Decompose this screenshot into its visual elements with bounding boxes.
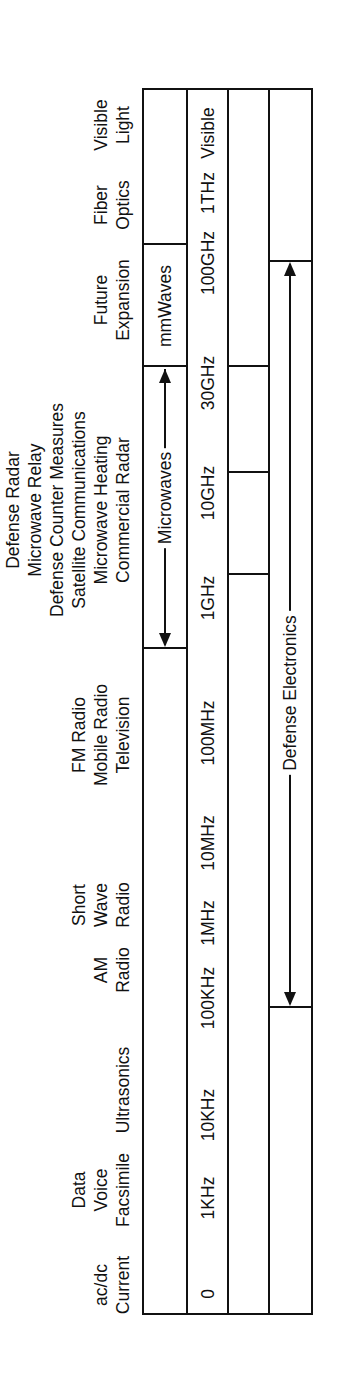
- freq-label-10ghz: 10GHz: [188, 466, 229, 520]
- row3-tick-1ghz: [227, 573, 268, 575]
- freq-label-10khz: 10KHz: [188, 1089, 229, 1142]
- defense-electronics-label: Defense Electronics: [280, 611, 301, 775]
- row3-tick-30ghz: [227, 365, 268, 367]
- header-label-ac-dc: ac/dc Current: [90, 1256, 134, 1314]
- mmwaves-label: mmWaves: [155, 265, 176, 347]
- spectrum-table: mmWaves Microwaves 0 1KHz 10KHz 100KHz 1…: [142, 88, 313, 1315]
- defense-arrowhead-right-icon: [284, 262, 296, 276]
- mmwaves-left-divider: [144, 365, 186, 367]
- freq-label-10mhz: 10MHz: [188, 815, 229, 870]
- row3-tick-10ghz: [227, 471, 268, 473]
- freq-label-30ghz: 30GHz: [188, 356, 229, 410]
- freq-label-visible: Visible: [188, 107, 229, 158]
- freq-label-1mhz: 1MHz: [188, 900, 229, 946]
- freq-label-100khz: 100KHz: [188, 967, 229, 1029]
- header-label-future-expansion: Future Expansion: [90, 259, 134, 341]
- header-label-fiber-optics: Fiber Optics: [90, 180, 134, 230]
- header-label-data-voice-facsimile: Data Voice Facsimile: [68, 1153, 134, 1227]
- header-label-ultrasonics: Ultrasonics: [112, 1047, 134, 1134]
- defense-arrowhead-left-icon: [284, 992, 296, 1006]
- mmwaves-right-divider: [144, 243, 186, 245]
- header-label-visible-light: Visible Light: [90, 99, 134, 150]
- freq-label-1khz: 1KHz: [188, 1177, 229, 1220]
- header-label-microwave-applications: Defense Radar Microwave Relay Defense Co…: [2, 403, 134, 617]
- microwaves-arrowhead-right-icon: [159, 369, 171, 383]
- defense-left-divider: [268, 1006, 313, 1008]
- microwaves-arrowhead-left-icon: [159, 633, 171, 647]
- header-label-am-radio: AM Radio: [90, 947, 134, 993]
- freq-label-100ghz: 100GHz: [188, 231, 229, 295]
- freq-label-0: 0: [188, 1289, 229, 1299]
- row-divider-3: [268, 90, 270, 1313]
- microwaves-label: Microwaves: [155, 448, 176, 548]
- header-label-short-wave-radio: Short Wave Radio: [68, 882, 134, 928]
- freq-label-100mhz: 100MHz: [188, 700, 229, 765]
- spectrum-diagram: ac/dc Current Data Voice Facsimile Ultra…: [0, 0, 339, 1391]
- microwaves-left-divider: [144, 647, 186, 649]
- freq-label-1thz: 1THz: [188, 172, 229, 214]
- header-label-fm-mobile-tv: FM Radio Mobile Radio Television: [68, 684, 134, 786]
- freq-label-1ghz: 1GHz: [188, 576, 229, 621]
